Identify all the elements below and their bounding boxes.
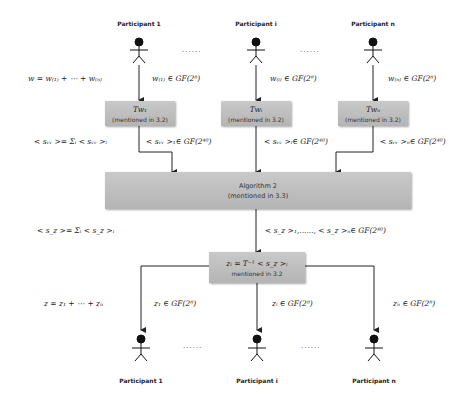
transform-box-title: Twₙ bbox=[366, 105, 380, 114]
participant-label-bottom-n: Participant n bbox=[334, 377, 414, 384]
actor-icon-top-i bbox=[247, 38, 265, 63]
ellipsis-bottom-right: ...... bbox=[301, 342, 320, 350]
sum-label-z: z = z₁ + ⋯ + zₙ bbox=[44, 299, 103, 308]
inverse-box-subtitle: mentioned in 3.2 bbox=[231, 270, 282, 277]
participant-label-bottom-1: Participant 1 bbox=[101, 377, 181, 384]
ellipsis-top-right: ...... bbox=[300, 46, 319, 54]
participant-label-top-i: Participant i bbox=[216, 20, 296, 27]
inverse-transform-box: zᵢ = T⁻¹ < s_z >ᵢ mentioned in 3.2 bbox=[209, 252, 305, 283]
sum-label-w: w = w₍₁₎ + ⋯ + w₍ₙ₎ bbox=[28, 74, 102, 83]
transform-box-subtitle: (mentioned in 3.2) bbox=[228, 116, 284, 123]
transform-box-subtitle: (mentioned in 3.2) bbox=[112, 116, 168, 123]
transform-box-i: Twᵢ (mentioned in 3.2) bbox=[221, 101, 291, 126]
sum-label-sw: < sᵥᵥ >= Σᵢ < sᵥᵥ >ᵢ bbox=[34, 137, 107, 146]
actor-icon-bottom-1 bbox=[132, 335, 150, 361]
actor-icon-top-1 bbox=[130, 38, 148, 63]
transform-box-1: Tw₁ (mentioned in 3.2) bbox=[105, 101, 175, 126]
tw-output-label-n: < sᵥᵥ >ₙ∈ GF(2⁴⁰) bbox=[380, 137, 446, 146]
transform-box-n: Twₙ (mentioned in 3.2) bbox=[338, 101, 408, 126]
ellipsis-bottom-left: ...... bbox=[183, 342, 202, 350]
transform-box-subtitle: (mentioned in 3.2) bbox=[345, 116, 401, 123]
actor-icon-bottom-n bbox=[365, 335, 383, 361]
tw-output-label-i: < sᵥᵥ >ᵢ∈ GF(2⁴⁰) bbox=[264, 137, 328, 146]
ellipsis-top-left: ...... bbox=[182, 46, 201, 54]
inverse-box-title: zᵢ = T⁻¹ < s_z >ᵢ bbox=[226, 259, 287, 268]
algorithm-output-label: < s_z >₁,......, < s_z >ₙ∈ GF(2⁴⁰) bbox=[265, 226, 386, 235]
participant-label-top-1: Participant 1 bbox=[99, 20, 179, 27]
actor-icon-top-n bbox=[364, 38, 382, 63]
actor-icon-bottom-i bbox=[248, 335, 266, 361]
sum-label-sz: < s_z >= Σᵢ < s_z >ᵢ bbox=[37, 226, 114, 235]
tw-output-label-1: < sᵥᵥ >₁∈ GF(2⁴⁰) bbox=[146, 137, 212, 146]
algorithm-box-subtitle: (mentioned in 3.3) bbox=[228, 192, 289, 200]
share-label-bottom-i: zᵢ ∈ GF(2⁸) bbox=[272, 299, 313, 308]
algorithm-box-title: Algorithm 2 bbox=[239, 182, 277, 190]
share-label-top-i: w₍ᵢ₎ ∈ GF(2⁸) bbox=[270, 74, 317, 83]
transform-box-title: Tw₁ bbox=[133, 105, 147, 114]
participant-label-top-n: Participant n bbox=[333, 20, 413, 27]
share-label-top-n: w₍ₙ₎ ∈ GF(2⁸) bbox=[388, 74, 436, 83]
participant-label-bottom-i: Participant i bbox=[217, 377, 297, 384]
share-label-bottom-1: z₁ ∈ GF(2⁸) bbox=[154, 299, 196, 308]
algorithm-box: Algorithm 2 (mentioned in 3.3) bbox=[105, 172, 411, 209]
share-label-top-1: w₍₁₎ ∈ GF(2⁸) bbox=[152, 74, 200, 83]
transform-box-title: Twᵢ bbox=[250, 105, 263, 114]
share-label-bottom-n: zₙ ∈ GF(2⁸) bbox=[393, 299, 435, 308]
